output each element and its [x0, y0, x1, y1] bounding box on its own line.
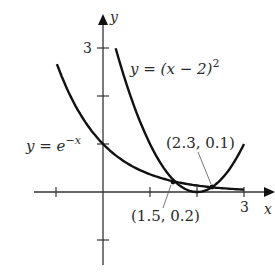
intersection-point	[171, 180, 176, 185]
function-plot: y x 3 3 y = (x − 2)2 y = e−x (1.5, 0.2) …	[0, 0, 275, 272]
exp-curve	[57, 64, 244, 190]
annotation-2-3-0-1: (2.3, 0.1)	[166, 134, 235, 152]
exp-label: y = e−x	[25, 134, 82, 155]
x-axis-arrow-icon	[264, 187, 275, 197]
y-tick-label-3: 3	[83, 40, 92, 56]
intersection-point	[210, 185, 215, 190]
annotation-1-5-0-2: (1.5, 0.2)	[131, 207, 200, 225]
parabola-label: y = (x − 2)2	[129, 57, 219, 78]
y-axis-arrow-icon	[98, 14, 108, 25]
leader-line	[163, 185, 171, 208]
y-axis-label: y	[109, 9, 119, 25]
x-tick-label-3: 3	[240, 199, 249, 215]
leader-line	[198, 152, 211, 184]
x-axis-label: x	[264, 201, 272, 217]
